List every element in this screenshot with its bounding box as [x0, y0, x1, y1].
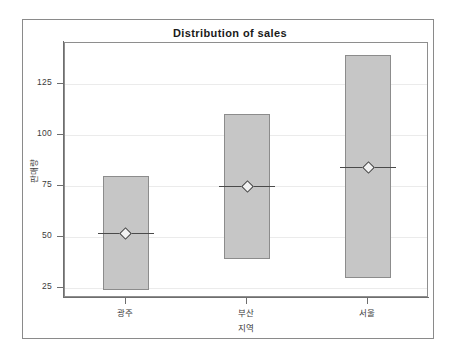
y-axis-title: 판매량 [27, 159, 39, 183]
y-axis-line [63, 41, 64, 298]
plot-inner [65, 43, 427, 296]
y-tick-label: 100 [8, 128, 52, 138]
y-tick [57, 287, 64, 288]
chart-root: Distribution of sales 255075100125 판매량 광… [0, 0, 456, 358]
y-axis-title-wrap: 판매량 [26, 142, 40, 200]
x-axis-title: 지역 [64, 321, 428, 333]
x-tick [367, 298, 368, 304]
y-tick [57, 236, 64, 237]
chart-title: Distribution of sales [60, 27, 400, 39]
y-tick [57, 83, 64, 84]
x-tick-label-서울: 서울 [332, 306, 402, 318]
y-tick-label: 125 [8, 77, 52, 87]
x-tick [125, 298, 126, 304]
y-tick-label: 25 [8, 281, 52, 291]
x-tick-label-부산: 부산 [211, 306, 281, 318]
y-tick-label: 50 [8, 230, 52, 240]
y-tick [57, 134, 64, 135]
x-tick [246, 298, 247, 304]
y-tick [57, 185, 64, 186]
plot-area [64, 42, 428, 297]
x-tick-label-광주: 광주 [90, 306, 160, 318]
